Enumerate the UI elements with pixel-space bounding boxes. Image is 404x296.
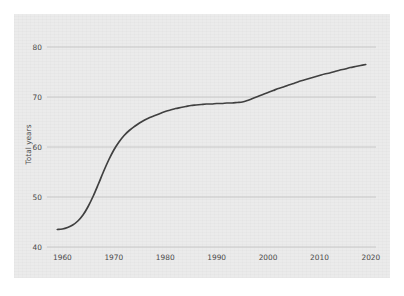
x-tick-label-1970: 1970 <box>104 253 123 262</box>
x-tick-labels: 1960197019801990200020102020 <box>53 253 381 262</box>
x-tick-label-1980: 1980 <box>156 253 175 262</box>
y-tick-label-40: 40 <box>33 243 43 252</box>
y-tick-labels: 4050607080 <box>33 43 43 252</box>
y-tick-label-50: 50 <box>33 193 43 202</box>
x-tick-label-2010: 2010 <box>310 253 329 262</box>
y-axis-title: Total years <box>24 124 33 165</box>
x-tick-label-2000: 2000 <box>259 253 278 262</box>
y-axis-title: Total years <box>24 124 33 165</box>
y-tick-label-80: 80 <box>33 43 43 52</box>
x-tick-label-1960: 1960 <box>53 253 72 262</box>
x-tick-label-1990: 1990 <box>207 253 226 262</box>
gridlines <box>47 47 376 247</box>
y-tick-label-70: 70 <box>33 93 43 102</box>
line-chart: 4050607080 1960197019801990200020102020 … <box>0 0 404 296</box>
y-tick-label-60: 60 <box>33 143 43 152</box>
x-tick-label-2020: 2020 <box>361 253 380 262</box>
